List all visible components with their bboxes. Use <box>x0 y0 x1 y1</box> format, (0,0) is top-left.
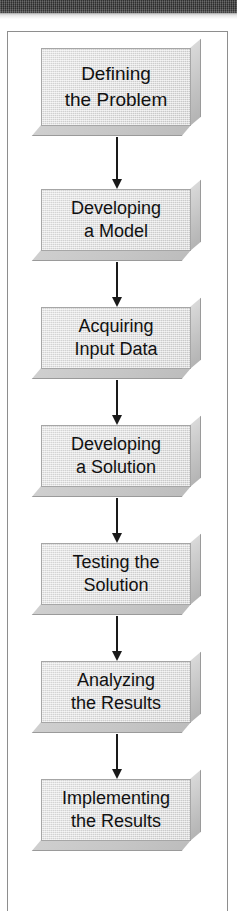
arrow-head-icon <box>112 297 122 307</box>
block-side-face <box>190 39 201 126</box>
flow-node-developing-a-model[interactable]: Developing a Model <box>41 189 191 251</box>
process-block: Defining the Problem <box>41 48 191 126</box>
process-block: Implementing the Results <box>41 779 191 841</box>
block-bottom-face <box>32 125 191 136</box>
flow-node-defining-the-problem[interactable]: Defining the Problem <box>41 48 191 126</box>
node-label-line2: Input Data <box>74 338 157 361</box>
arrow-head-icon <box>112 769 122 779</box>
flow-arrow-4 <box>116 498 118 543</box>
block-side-face <box>190 298 201 369</box>
flow-arrow-3 <box>116 380 118 425</box>
block-side-face <box>190 770 201 841</box>
arrow-shaft <box>116 262 118 298</box>
block-side-face <box>190 652 201 723</box>
arrow-shaft <box>116 380 118 416</box>
node-label-line1: Acquiring <box>78 315 153 338</box>
block-bottom-face <box>32 250 191 261</box>
block-front-face: Developing a Solution <box>41 425 191 487</box>
node-label-line1: Analyzing <box>77 669 155 692</box>
block-bottom-face <box>32 368 191 379</box>
flow-arrow-6 <box>116 734 118 779</box>
block-front-face: Testing the Solution <box>41 543 191 605</box>
block-bottom-face <box>32 486 191 497</box>
block-bottom-face <box>32 840 191 851</box>
block-front-face: Developing a Model <box>41 189 191 251</box>
node-label-line2: the Results <box>71 692 161 715</box>
node-label-line1: Implementing <box>62 787 170 810</box>
arrow-head-icon <box>112 415 122 425</box>
arrow-head-icon <box>112 651 122 661</box>
node-label-line2: Solution <box>83 574 148 597</box>
flow-node-analyzing-the-results[interactable]: Analyzing the Results <box>41 661 191 723</box>
block-side-face <box>190 180 201 251</box>
block-front-face: Implementing the Results <box>41 779 191 841</box>
process-block: Testing the Solution <box>41 543 191 605</box>
block-side-face <box>190 416 201 487</box>
arrow-shaft <box>116 616 118 652</box>
arrow-head-icon <box>112 533 122 543</box>
block-front-face: Defining the Problem <box>41 48 191 126</box>
flow-node-acquiring-input-data[interactable]: Acquiring Input Data <box>41 307 191 369</box>
flow-arrow-2 <box>116 262 118 307</box>
block-front-face: Analyzing the Results <box>41 661 191 723</box>
block-bottom-face <box>32 604 191 615</box>
node-label-line1: Testing the <box>72 551 159 574</box>
node-label-line2: the Problem <box>65 87 167 113</box>
arrow-head-icon <box>112 179 122 189</box>
process-block: Acquiring Input Data <box>41 307 191 369</box>
arrow-shaft <box>116 734 118 770</box>
flow-node-developing-a-solution[interactable]: Developing a Solution <box>41 425 191 487</box>
flow-arrow-5 <box>116 616 118 661</box>
process-block: Developing a Solution <box>41 425 191 487</box>
block-front-face: Acquiring Input Data <box>41 307 191 369</box>
flow-node-testing-the-solution[interactable]: Testing the Solution <box>41 543 191 605</box>
node-label-line2: the Results <box>71 810 161 833</box>
flow-node-implementing-the-results[interactable]: Implementing the Results <box>41 779 191 841</box>
arrow-shaft <box>116 137 118 180</box>
node-label-line1: Developing <box>71 433 161 456</box>
node-label-line1: Developing <box>71 197 161 220</box>
process-block: Developing a Model <box>41 189 191 251</box>
node-label-line2: a Model <box>84 220 148 243</box>
node-label-line2: a Solution <box>76 456 156 479</box>
arrow-shaft <box>116 498 118 534</box>
block-bottom-face <box>32 722 191 733</box>
block-side-face <box>190 534 201 605</box>
process-block: Analyzing the Results <box>41 661 191 723</box>
node-label-line1: Defining <box>81 61 151 87</box>
flow-arrow-1 <box>116 137 118 189</box>
